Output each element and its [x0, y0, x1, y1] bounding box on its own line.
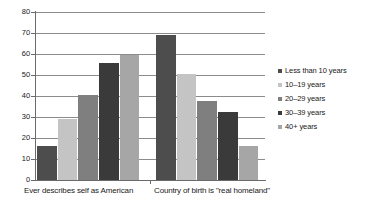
legend-item-1[interactable]: 10–19 years: [278, 78, 370, 91]
y-axis-label-70: 70: [2, 29, 30, 37]
y-axis-label-0: 0: [2, 176, 30, 184]
legend-swatch-icon-1: [278, 83, 282, 87]
bar-cat0-series2: [78, 95, 98, 180]
y-axis-label-20: 20: [2, 134, 30, 142]
legend-label-4: 40+ years: [285, 122, 317, 131]
legend-swatch-icon-0: [278, 69, 282, 73]
y-axis-label-40: 40: [2, 92, 30, 100]
legend-swatch-icon-4: [278, 125, 282, 129]
bar-cat0-series3: [99, 63, 119, 180]
legend-item-4[interactable]: 40+ years: [278, 120, 370, 133]
legend-label-1: 10–19 years: [285, 80, 325, 89]
legend-label-3: 30–39 years: [285, 108, 325, 117]
gridline-60: [36, 54, 265, 55]
category-label-0: Ever describes self as American: [24, 186, 133, 196]
y-axis-label-10: 10: [2, 155, 30, 163]
y-axis-label-50: 50: [2, 71, 30, 79]
gridline-70: [36, 33, 265, 34]
legend-swatch-icon-2: [278, 97, 282, 101]
plot-area: [36, 12, 265, 180]
bar-cat1-series1: [177, 74, 197, 180]
bar-cat1-series3: [218, 112, 238, 180]
category-label-1: Country of birth is "real homeland": [154, 186, 270, 196]
legend-item-2[interactable]: 20–29 years: [278, 92, 370, 105]
bar-cat1-series4: [239, 146, 259, 180]
legend-label-0: Less than 10 years: [285, 66, 347, 75]
bar-cat0-series1: [58, 119, 78, 180]
legend-swatch-icon-3: [278, 111, 282, 115]
gridline-80: [36, 12, 265, 13]
gridline-50: [36, 75, 265, 76]
category-separator-tick: [150, 180, 151, 184]
legend-item-3[interactable]: 30–39 years: [278, 106, 370, 119]
y-axis-label-60: 60: [2, 50, 30, 58]
y-axis-label-80: 80: [2, 8, 30, 16]
bar-chart: 80706050403020100 Ever describes self as…: [0, 0, 371, 203]
bar-cat1-series0: [156, 35, 176, 180]
gridline-40: [36, 96, 265, 97]
y-axis-label-30: 30: [2, 113, 30, 121]
legend-item-0[interactable]: Less than 10 years: [278, 64, 370, 77]
bar-cat1-series2: [197, 101, 217, 180]
bar-cat0-series0: [37, 146, 57, 180]
chart-legend: Less than 10 years10–19 years20–29 years…: [278, 64, 370, 134]
legend-label-2: 20–29 years: [285, 94, 325, 103]
bar-cat0-series4: [120, 55, 140, 180]
